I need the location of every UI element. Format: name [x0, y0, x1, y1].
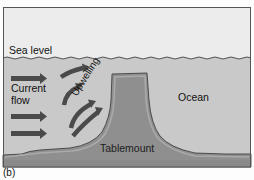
current-flow-label-line1: Current — [11, 82, 46, 94]
ocean-label: Ocean — [178, 91, 209, 103]
current-flow-label-line2: flow — [11, 94, 46, 106]
tablemount-upwelling-diagram: Sea level Current flow Upwelling Ocean T… — [0, 0, 254, 180]
sea-level-label: Sea level — [9, 44, 52, 56]
tablemount-label: Tablemount — [100, 142, 154, 154]
figure-caption: (b) — [3, 167, 15, 179]
current-flow-label: Current flow — [11, 82, 46, 106]
seafloor — [3, 160, 251, 167]
